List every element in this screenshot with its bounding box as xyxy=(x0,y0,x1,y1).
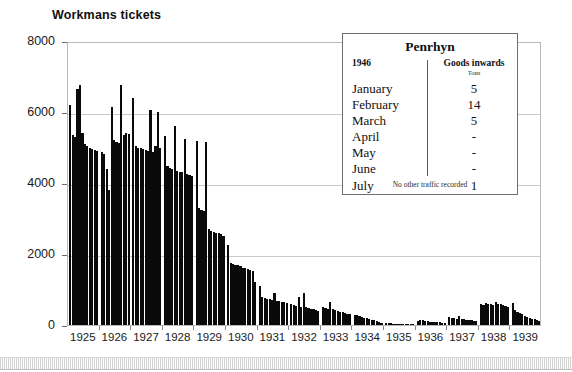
bar xyxy=(159,148,161,325)
xtick-label-1925: 1925 xyxy=(66,331,100,343)
inset-month-label: April xyxy=(352,129,379,145)
xtick-label-1929: 1929 xyxy=(192,331,226,343)
xtick-mark-1933 xyxy=(320,326,321,330)
ytick-label-4000: 4000 xyxy=(0,176,55,190)
inset-row: May- xyxy=(343,145,517,161)
inset-month-label: June xyxy=(352,161,376,177)
xtick-mark-1932 xyxy=(288,326,289,330)
inset-row: February14 xyxy=(343,97,517,113)
xtick-mark-1931 xyxy=(257,326,258,330)
xtick-label-1934: 1934 xyxy=(350,331,384,343)
ytick-label-2000: 2000 xyxy=(0,247,55,261)
page-edge-line-bottom xyxy=(0,369,572,370)
penrhyn-inset-table: Penrhyn 1946 Goods inwards Tons January5… xyxy=(342,33,518,195)
inset-row: June- xyxy=(343,161,517,177)
bar xyxy=(507,307,509,325)
ytick-label-8000: 8000 xyxy=(0,34,55,48)
xtick-mark-1937 xyxy=(446,326,447,330)
xtick-label-1930: 1930 xyxy=(224,331,258,343)
scan-artifact-band xyxy=(0,358,572,369)
inset-column-header: Goods inwards xyxy=(431,58,517,68)
bar xyxy=(349,314,351,325)
inset-row: March5 xyxy=(343,113,517,129)
xtick-label-1936: 1936 xyxy=(413,331,447,343)
inset-units-label: Tons xyxy=(431,69,517,76)
xtick-mark-1938 xyxy=(478,326,479,330)
bar xyxy=(222,236,224,325)
xtick-label-1926: 1926 xyxy=(97,331,131,343)
xtick-label-1938: 1938 xyxy=(477,331,511,343)
bar xyxy=(380,323,382,325)
xtick-label-1931: 1931 xyxy=(255,331,289,343)
inset-value: 5 xyxy=(431,81,517,97)
inset-title: Penrhyn xyxy=(343,39,517,55)
xtick-mark-1927 xyxy=(130,326,131,330)
inset-row: April- xyxy=(343,129,517,145)
chart-figure: Workmans tickets 02000400060008000 19251… xyxy=(0,0,572,372)
xtick-label-1939: 1939 xyxy=(508,331,542,343)
xtick-label-1937: 1937 xyxy=(445,331,479,343)
xtick-mark-1928 xyxy=(162,326,163,330)
xtick-label-1932: 1932 xyxy=(287,331,321,343)
inset-footnote: No other traffic recorded xyxy=(343,180,517,189)
bar xyxy=(254,282,256,325)
inset-row: January5 xyxy=(343,81,517,97)
xtick-mark-1926 xyxy=(99,326,100,330)
bar xyxy=(96,151,98,325)
bar xyxy=(475,321,477,325)
inset-month-label: March xyxy=(352,113,386,129)
inset-value: - xyxy=(431,161,517,177)
xtick-label-1933: 1933 xyxy=(319,331,353,343)
inset-year-header: 1946 xyxy=(352,58,371,68)
xtick-mark-1939 xyxy=(509,326,510,330)
inset-value: 14 xyxy=(431,97,517,113)
inset-header: 1946 Goods inwards Tons xyxy=(343,57,517,81)
xtick-mark-1934 xyxy=(351,326,352,330)
inset-value: - xyxy=(431,145,517,161)
xtick-label-1928: 1928 xyxy=(161,331,195,343)
xtick-mark-1936 xyxy=(415,326,416,330)
bar xyxy=(412,324,414,325)
xtick-mark-1935 xyxy=(383,326,384,330)
inset-month-label: February xyxy=(352,97,399,113)
bar xyxy=(538,321,540,325)
ytick-label-0: 0 xyxy=(0,318,55,332)
inset-value: 5 xyxy=(431,113,517,129)
bar xyxy=(444,323,446,325)
bar xyxy=(191,176,193,325)
inset-value: - xyxy=(431,129,517,145)
xtick-label-1935: 1935 xyxy=(382,331,416,343)
xtick-label-1927: 1927 xyxy=(129,331,163,343)
bar xyxy=(286,303,288,325)
xtick-mark-1929 xyxy=(193,326,194,330)
inset-month-label: May xyxy=(352,145,376,161)
bar xyxy=(128,134,130,325)
xtick-mark-1930 xyxy=(225,326,226,330)
chart-title: Workmans tickets xyxy=(52,8,161,22)
inset-rows: January5February14March5April-May-June-J… xyxy=(343,81,517,194)
ytick-label-6000: 6000 xyxy=(0,105,55,119)
bar xyxy=(317,311,319,325)
inset-month-label: January xyxy=(352,81,392,97)
